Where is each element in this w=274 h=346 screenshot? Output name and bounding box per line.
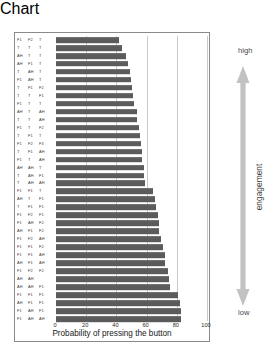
bar-row-label: TF1T <box>17 134 55 138</box>
x-tick-label: 20 <box>82 322 88 328</box>
bar-row: AHAHF1 <box>15 283 209 291</box>
bar-row-label: F1F2AH <box>17 237 55 241</box>
engagement-axis-label-text: engagement <box>254 164 264 211</box>
bar-row: TAHF1 <box>15 172 209 180</box>
engagement-annotation: high low engagement <box>212 32 274 342</box>
bar <box>56 93 133 99</box>
bar-row-label: TTT <box>17 46 55 50</box>
bar-row: F1TAH <box>15 156 209 164</box>
bar-row: F1F1AH <box>15 251 209 259</box>
bar-row: F1AHT <box>15 76 209 84</box>
bar-row-label: F1TAH <box>17 158 55 162</box>
bar <box>56 125 139 131</box>
bar <box>56 229 159 235</box>
bar-row-label: F1AHT <box>17 78 55 82</box>
bar <box>56 133 140 139</box>
bar-row-label: AHAHF1 <box>17 285 55 289</box>
bar-row-label: TTF1 <box>17 94 55 98</box>
bar-row-label: AHTT <box>17 54 55 58</box>
bar-row: TF1AH <box>15 148 209 156</box>
bar-row: TTAH <box>15 116 209 124</box>
bar <box>56 69 130 75</box>
bar-row: AHAHT <box>15 164 209 172</box>
bar-row-label: AHF1AH <box>17 261 55 265</box>
bar-row: F1F2F1 <box>15 211 209 219</box>
bar-row-label: F1TF2 <box>17 126 55 130</box>
x-tick-label: 100 <box>201 322 210 328</box>
bar-chart-figure: F1F2TTTTAHTTAHF1TTAHTF1AHTTF1F2TTF1F1TTA… <box>0 18 274 346</box>
bar <box>56 221 159 227</box>
bar-row: F1TT <box>15 100 209 108</box>
bar-row-label: F1F2F1 <box>17 213 55 217</box>
bar-row: AHTF1 <box>15 195 209 203</box>
bar <box>56 149 142 155</box>
bar-row-label: F1F2F3 <box>17 142 55 146</box>
bar-row-label: F1F1F2 <box>17 245 55 249</box>
bar-row-label: AHTF1 <box>17 197 55 201</box>
bar-row-label: F1TT <box>17 102 55 106</box>
bar <box>56 268 168 274</box>
bar-row-label: AHTAH <box>17 110 55 114</box>
x-tick-label: 40 <box>112 322 118 328</box>
bar-row-label: F1AHAH <box>17 317 55 321</box>
bar-row-label: F1F2T <box>17 38 55 42</box>
engagement-low-label: low <box>238 308 249 317</box>
x-tick-label: 80 <box>173 322 179 328</box>
bar-row: F1F2AH <box>15 235 209 243</box>
bar-row: F1F1F1 <box>15 291 209 299</box>
bar-row: AHF1F1 <box>15 299 209 307</box>
bar-row: TF1F2 <box>15 84 209 92</box>
engagement-axis-label: engagement <box>252 32 266 342</box>
bar-row-label: TF1F2 <box>17 86 55 90</box>
bar <box>56 117 137 123</box>
bar-rows: F1F2TTTTAHTTAHF1TTAHTF1AHTTF1F2TTF1F1TTA… <box>15 33 209 341</box>
bar-row-label: TTAH <box>17 118 55 122</box>
bar <box>56 284 170 290</box>
bar-row-label: F1F1AH <box>17 253 55 257</box>
bar <box>56 101 134 107</box>
bar <box>56 244 163 250</box>
bar-row-label: AHF1F1 <box>17 301 55 305</box>
bar <box>56 300 180 306</box>
bar-row-label: AHF1F2 <box>17 229 55 233</box>
bar <box>56 308 181 314</box>
bar <box>56 213 158 219</box>
bar-row-label: TAHAH <box>17 182 55 186</box>
bar <box>56 37 119 43</box>
bar <box>56 53 126 59</box>
bar-row: TTF1 <box>15 92 209 100</box>
bar-row: TF1T <box>15 132 209 140</box>
bar <box>56 165 144 171</box>
bar-row-label: F1F1T <box>17 190 55 194</box>
bar <box>56 45 122 51</box>
bar-row: AHF1F2 <box>15 227 209 235</box>
bar-row-label: F1AHF2 <box>17 221 55 225</box>
double-arrow-icon <box>236 66 250 306</box>
bar <box>56 252 165 258</box>
bar <box>56 109 137 115</box>
bar-row-label: TF1F1 <box>17 205 55 209</box>
bar-row: F1AHF2 <box>15 219 209 227</box>
bar-row-label: AHAH <box>17 277 55 281</box>
bar-row-label: TF1AH <box>17 150 55 154</box>
bar <box>56 189 153 195</box>
bar <box>56 276 169 282</box>
bar-row: F1F1F2 <box>15 243 209 251</box>
bar <box>56 292 178 298</box>
bar-row: F1F1T <box>15 187 209 195</box>
bar-row-label: AHF1T <box>17 62 55 66</box>
bar <box>56 173 144 179</box>
bar <box>56 77 131 83</box>
bar-row: TAHAH <box>15 180 209 188</box>
bar-row: F1F2F2 <box>15 267 209 275</box>
bar-row: TTT <box>15 44 209 52</box>
bar <box>56 205 156 211</box>
bar-row: AHF1AH <box>15 259 209 267</box>
bar <box>56 61 128 67</box>
plot-area: F1F2TTTTAHTTAHF1TTAHTF1AHTTF1F2TTF1F1TTA… <box>14 32 210 342</box>
bar-row-label: TAHF1 <box>17 174 55 178</box>
bar-row-label: TAHT <box>17 70 55 74</box>
bar <box>56 316 181 322</box>
bar-row: AHAH <box>15 275 209 283</box>
bar-row: TF1F1 <box>15 203 209 211</box>
